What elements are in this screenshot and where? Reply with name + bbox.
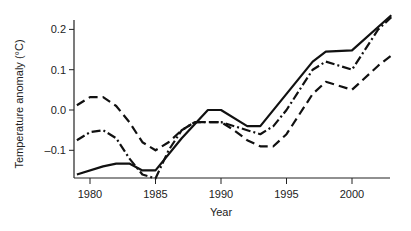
- data-lines: [77, 15, 391, 178]
- y-tick-label: 0.2: [51, 23, 66, 35]
- series-line-dash-dot: [77, 17, 391, 178]
- y-tick-label: 0.1: [51, 64, 66, 76]
- y-axis-title: Temperature anomaly (°C): [13, 39, 25, 168]
- y-tick-label: 0.0: [51, 104, 66, 116]
- series-line-dashed: [77, 56, 391, 151]
- temperature-anomaly-chart: –0.10.00.10.219801985199019952000 Year T…: [0, 0, 411, 231]
- x-tick-label: 2000: [340, 188, 364, 200]
- x-tick-label: 1985: [143, 188, 167, 200]
- y-tick-label: –0.1: [45, 144, 66, 156]
- x-tick-label: 1980: [78, 188, 102, 200]
- x-tick-label: 1990: [209, 188, 233, 200]
- x-axis-title: Year: [210, 206, 233, 218]
- x-tick-label: 1995: [274, 188, 298, 200]
